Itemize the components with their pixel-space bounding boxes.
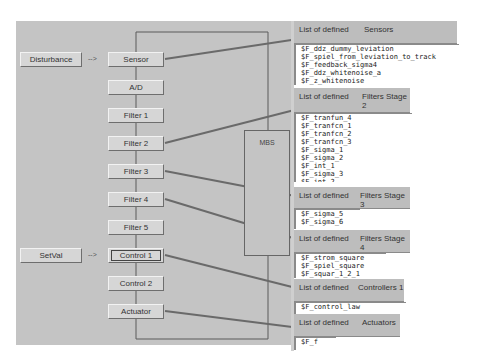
- sensor-button[interactable]: Sensor: [108, 52, 164, 67]
- arrow-label: -->: [88, 55, 97, 62]
- filters-stage-4-list[interactable]: $F_strom_square $F_spiel_square $F_squar…: [294, 253, 386, 278]
- filter-2-button[interactable]: Filter 2: [108, 136, 164, 151]
- list-item[interactable]: $F_ddz_dummy_leviation: [296, 45, 459, 53]
- sensors-list[interactable]: $F_ddz_dummy_leviation $F_spiel_from_lev…: [294, 44, 459, 85]
- list-item[interactable]: $F_int_1: [296, 162, 412, 170]
- filters-stage-2-panel-header: List of defined Filters Stage 2: [294, 88, 410, 113]
- filters-stage-2-list[interactable]: $F_tranfun_4 $F_tranfcn_1 $F_tranfcn_2 $…: [294, 113, 412, 182]
- mbs-label: MBS: [245, 139, 289, 146]
- controllers-1-panel-header: List of defined Controllers 1: [294, 279, 404, 302]
- filters-stage-3-panel-header: List of defined Filters Stage 3: [294, 187, 410, 209]
- control-2-button[interactable]: Control 2: [108, 276, 164, 291]
- panel-prefix: List of defined: [299, 25, 349, 34]
- panel-prefix: List of defined: [299, 318, 349, 327]
- arrow-label: -->: [88, 251, 97, 258]
- list-item[interactable]: $F_tranfcn_2: [296, 130, 412, 138]
- panel-prefix: List of defined: [299, 234, 349, 243]
- list-item[interactable]: $F_control_law: [296, 303, 406, 311]
- filter-3-button[interactable]: Filter 3: [108, 164, 164, 179]
- actuators-list[interactable]: $F_f: [294, 337, 336, 350]
- filter-5-button[interactable]: Filter 5: [108, 220, 164, 235]
- list-item[interactable]: $F_tranfcn_3: [296, 138, 412, 146]
- mbs-block[interactable]: MBS: [244, 130, 290, 256]
- filter-1-button[interactable]: Filter 1: [108, 108, 164, 123]
- filter-4-button[interactable]: Filter 4: [108, 192, 164, 207]
- control-1-label: Control 1: [111, 250, 161, 261]
- actuator-button[interactable]: Actuator: [108, 304, 164, 319]
- list-item[interactable]: $F_f: [296, 338, 336, 346]
- list-item[interactable]: $F_z_whitenoise: [296, 77, 459, 85]
- panel-category: Filters Stage 3: [360, 191, 410, 209]
- panel-category: Filters Stage 2: [362, 92, 410, 110]
- panel-category: Controllers 1: [358, 283, 403, 292]
- control-1-button[interactable]: Control 1: [108, 248, 164, 263]
- list-item[interactable]: $F_sigma_6: [296, 218, 360, 226]
- list-item[interactable]: $F_sigma_3: [296, 170, 412, 178]
- panel-category: Actuators: [362, 318, 396, 327]
- filters-stage-3-list[interactable]: $F_sigma_5 $F_sigma_6: [294, 209, 360, 229]
- controllers-1-list[interactable]: $F_control_law: [294, 302, 406, 314]
- sensors-panel-header: List of defined Sensors: [294, 21, 457, 44]
- panel-category: Filters Stage 4: [360, 234, 410, 252]
- panel-category: Sensors: [364, 25, 393, 34]
- panel-prefix: List of defined: [299, 283, 349, 292]
- list-item[interactable]: $F_int_2: [296, 178, 412, 182]
- list-item[interactable]: $F_squar_1_2_1: [296, 270, 386, 278]
- list-item[interactable]: $F_tranfcn_1: [296, 122, 412, 130]
- list-item[interactable]: $F_ddz_whitenoise_a: [296, 69, 459, 77]
- filters-stage-4-panel-header: List of defined Filters Stage 4: [294, 230, 410, 253]
- list-item[interactable]: $F_spiel_from_leviation_to_track: [296, 53, 459, 61]
- disturbance-button[interactable]: Disturbance: [20, 52, 82, 67]
- list-item[interactable]: $F_sigma_2: [296, 154, 412, 162]
- list-item[interactable]: $F_sigma_1: [296, 146, 412, 154]
- actuators-panel-header: List of defined Actuators: [294, 314, 400, 337]
- list-item[interactable]: $F_feedback_sigma4: [296, 61, 459, 69]
- list-item[interactable]: $F_tranfun_4: [296, 114, 412, 122]
- panel-prefix: List of defined: [299, 92, 349, 101]
- setval-button[interactable]: SetVal: [20, 248, 82, 263]
- list-item[interactable]: $F_spiel_square: [296, 262, 386, 270]
- ad-button[interactable]: A/D: [108, 80, 164, 95]
- list-item[interactable]: $F_strom_square: [296, 254, 386, 262]
- list-item[interactable]: $F_sigma_5: [296, 210, 360, 218]
- panel-prefix: List of defined: [299, 191, 349, 200]
